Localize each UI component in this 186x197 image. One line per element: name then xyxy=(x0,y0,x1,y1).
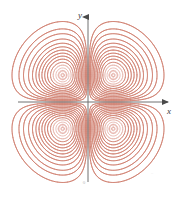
origin-label: 0 xyxy=(83,180,86,185)
corner-mark: ·· xyxy=(151,171,154,176)
x-axis-label: x xyxy=(166,106,171,116)
contour-plot-figure: x y 0 ·· xyxy=(0,0,186,197)
contour-plot-canvas: x y 0 ·· xyxy=(0,0,186,197)
y-axis-label: y xyxy=(77,10,82,20)
